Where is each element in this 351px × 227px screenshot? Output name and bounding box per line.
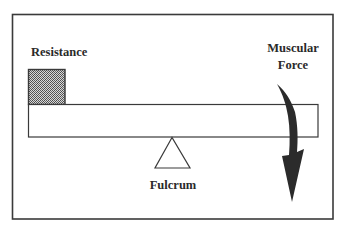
- muscular-force-label-line2: Force: [278, 58, 309, 72]
- fulcrum-label: Fulcrum: [150, 178, 197, 192]
- muscular-force-arrow-icon: [277, 84, 304, 202]
- fulcrum-triangle: [155, 138, 190, 169]
- lever-beam: [29, 105, 319, 138]
- resistance-load: [29, 70, 66, 105]
- muscular-force-label-line1: Muscular: [267, 41, 319, 55]
- lever-diagram: Resistance Fulcrum Muscular Force: [0, 0, 351, 227]
- resistance-label: Resistance: [31, 45, 88, 59]
